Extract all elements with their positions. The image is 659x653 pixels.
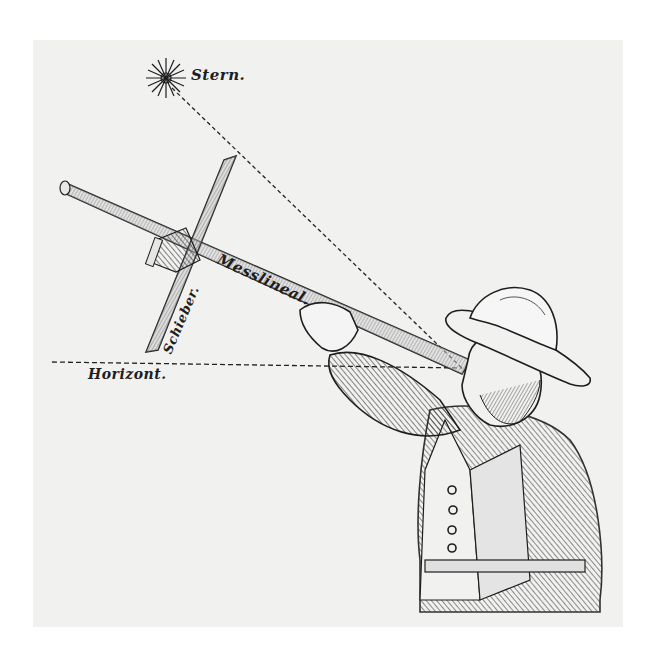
engraving-illustration [0,0,659,653]
star-label: Stern. [191,66,245,84]
star-icon [146,58,186,98]
observer-figure [300,288,602,612]
horizon-label: Horizont. [88,366,167,382]
